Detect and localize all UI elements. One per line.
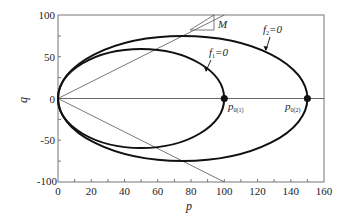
- x-tick-60: 60: [152, 185, 164, 197]
- x-tick-100: 100: [216, 185, 233, 197]
- x-tick-20: 20: [86, 185, 98, 197]
- y-tick-100: 100: [39, 9, 56, 21]
- p01-label: p0(1): [227, 100, 244, 114]
- x-tick-160: 160: [316, 185, 333, 197]
- x-tick-40: 40: [119, 185, 131, 197]
- x-tick-120: 120: [249, 185, 266, 197]
- y-tick-minus-50: -50: [40, 134, 55, 146]
- lower-diagonal-line: [58, 99, 224, 183]
- slope-triangle: [190, 15, 214, 30]
- chart: 0 20 40 60 80 100 120 140 160 100 50 0 -…: [0, 0, 350, 217]
- f2-label: f2=0: [263, 23, 282, 36]
- p02-label: p0(2): [284, 100, 301, 114]
- f1-label: f1=0: [209, 46, 228, 59]
- point-p02: [304, 95, 311, 102]
- y-tick-0: 0: [50, 93, 56, 105]
- point-p01: [221, 95, 228, 102]
- upper-diagonal-line: [58, 15, 224, 99]
- y-tick-minus-100: -100: [37, 175, 58, 187]
- y-tick-50: 50: [44, 51, 56, 63]
- x-tick-80: 80: [186, 185, 198, 197]
- x-axis-label: p: [185, 199, 192, 213]
- x-tick-140: 140: [283, 185, 300, 197]
- y-axis-label: q: [16, 97, 30, 103]
- m-label: M: [217, 18, 228, 30]
